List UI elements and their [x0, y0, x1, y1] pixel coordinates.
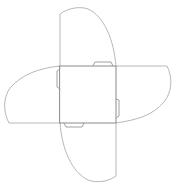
leaf-top — [60, 8, 116, 66]
table-plan-svg — [0, 0, 177, 193]
hinge-top — [93, 62, 113, 66]
leaf-right — [116, 66, 171, 123]
table-top — [60, 66, 116, 123]
leaf-bottom — [60, 123, 116, 182]
hinge-bottom — [64, 123, 84, 127]
leaf-left — [5, 66, 60, 123]
table-plan-diagram — [0, 0, 177, 193]
